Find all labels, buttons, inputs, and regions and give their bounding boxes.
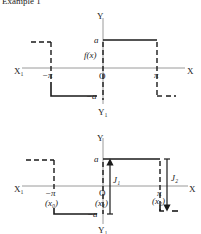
j1-label: J₁ (113, 175, 120, 185)
neg-a-label: −a (87, 209, 98, 219)
origin-label: O (99, 188, 106, 198)
x1-label: (x₁) (95, 198, 108, 208)
x1-axis-label: X₁ (14, 66, 24, 76)
pi-label: π (154, 70, 159, 80)
neg-a-label: −a (86, 91, 97, 101)
x-axis-label: X (187, 66, 194, 76)
neg-pi-label: −π (42, 70, 53, 80)
a-label: a (94, 154, 99, 164)
top-figure: Y Y₁ X X₁ O a −a f(x) −π π (14, 11, 194, 117)
origin-label: O (99, 71, 106, 81)
function-label: f(x) (84, 50, 97, 60)
x0-label: (x₀) (45, 198, 58, 208)
bottom-figure: Y Y₁ X X₁ O a −a −π π (x₀) (x₁) (x₂) J₁ … (14, 133, 196, 234)
x2-label: (x₂) (152, 196, 165, 206)
x1-axis-label: X₁ (14, 184, 24, 194)
square-wave-diagram: Example 1 Y Y₁ X X₁ O a −a f(x) −π π (0, 0, 201, 234)
y-axis-label: Y (97, 133, 104, 143)
neg-pi-label: −π (45, 188, 56, 198)
periodic-extension-right-corner (160, 206, 164, 211)
header-text: Example 1 (2, 0, 41, 6)
a-label: a (94, 35, 99, 45)
j2-label: J₂ (171, 173, 178, 183)
x-axis-label: X (189, 184, 196, 194)
y1-axis-label: Y₁ (98, 107, 108, 117)
y1-axis-label: Y₁ (98, 225, 108, 234)
y-axis-label: Y (97, 11, 104, 21)
